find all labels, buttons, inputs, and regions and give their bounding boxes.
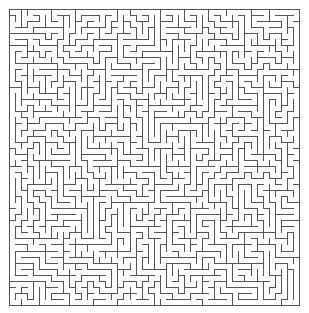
maze-page (0, 0, 309, 313)
maze-frame (0, 0, 309, 313)
maze-svg (0, 0, 309, 313)
